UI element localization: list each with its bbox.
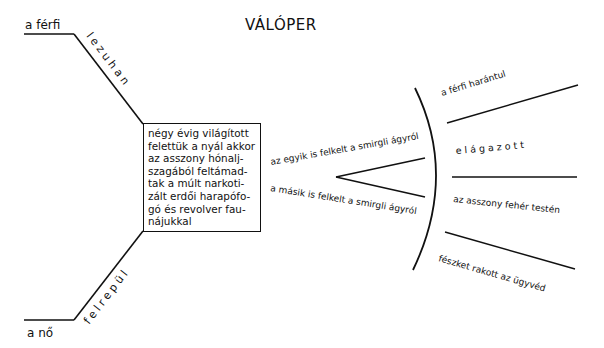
box-line-7: gó és revolver fau- — [148, 203, 256, 216]
fan-text-2: elágazott — [455, 139, 527, 156]
bottom-subject-label: a nő — [27, 326, 53, 340]
fan-text-1: a férfi harántul — [440, 69, 507, 98]
box-line-2: felettük a nyál akkor — [148, 140, 256, 153]
box-line-6: zált erdői harapófo- — [148, 190, 256, 203]
title: VÁLÓPER — [245, 15, 317, 34]
box-line-3: az asszony hónalj- — [148, 152, 256, 165]
box-line-4: szagából feltámad- — [148, 165, 256, 178]
box-line-5: tak a múlt narkoti- — [148, 177, 256, 190]
fan-text-4: fészket rakott az ügyvéd — [437, 253, 546, 293]
fork-lower-line — [336, 177, 425, 197]
center-text-box: négy évig világított felettük a nyál akk… — [143, 123, 261, 232]
bottom-branch-diagonal-line — [74, 231, 143, 320]
fork-upper-line — [336, 158, 425, 177]
top-subject-label: a férfi — [25, 18, 60, 32]
arc-bracket — [413, 88, 436, 270]
box-line-1: négy évig világított — [148, 127, 256, 140]
fork-lower-text: a másik is felkelt a smirgli ágyról — [270, 183, 418, 216]
bottom-verb-label: felrepül — [81, 265, 132, 326]
poem-diagram: VÁLÓPER a férfi lezuhan a nő felrepül az… — [0, 0, 604, 348]
fan-line-1 — [447, 85, 578, 123]
top-verb-label: lezuhan — [84, 30, 134, 90]
fork-upper-text: az egyik is felkelt a smirgli ágyról — [270, 131, 420, 167]
fan-text-3: az asszony fehér testén — [453, 194, 561, 215]
box-line-8: nájukkal — [148, 215, 256, 228]
